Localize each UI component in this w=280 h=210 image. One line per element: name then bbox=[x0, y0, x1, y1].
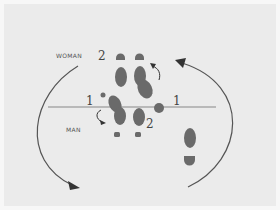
woman-label: WOMAN bbox=[56, 52, 82, 59]
dance-step-diagram: WOMAN 2 MAN 2 1 1 bbox=[0, 0, 280, 210]
left-arc-arrowhead-icon bbox=[68, 181, 80, 190]
right-step-number: 1 bbox=[173, 94, 181, 108]
woman-right-heel bbox=[135, 54, 144, 61]
woman-step-number: 2 bbox=[98, 49, 106, 63]
diagram-graphics bbox=[0, 0, 280, 210]
right-rotation-arc bbox=[182, 63, 233, 187]
woman-turn-arrowhead-icon bbox=[150, 63, 156, 69]
man-right-heel bbox=[135, 132, 141, 137]
woman-small-mark bbox=[101, 93, 106, 98]
left-step-number: 1 bbox=[86, 94, 94, 108]
man-right-sole bbox=[133, 108, 145, 126]
man-turn-arrow bbox=[97, 110, 102, 122]
single-heel bbox=[184, 156, 195, 166]
woman-pivot-foot bbox=[154, 103, 164, 113]
single-sole bbox=[184, 128, 196, 148]
man-turn-arrowhead-icon bbox=[100, 120, 106, 125]
man-footprints bbox=[106, 93, 145, 137]
man-left-heel bbox=[114, 132, 120, 137]
man-left-sole bbox=[114, 107, 126, 125]
man-step-number: 2 bbox=[146, 117, 154, 131]
woman-left-sole bbox=[115, 67, 127, 87]
woman-left-heel bbox=[116, 54, 125, 61]
single-footprint bbox=[184, 128, 196, 166]
right-arc-arrowhead-icon bbox=[175, 58, 186, 68]
man-label: MAN bbox=[66, 126, 81, 133]
